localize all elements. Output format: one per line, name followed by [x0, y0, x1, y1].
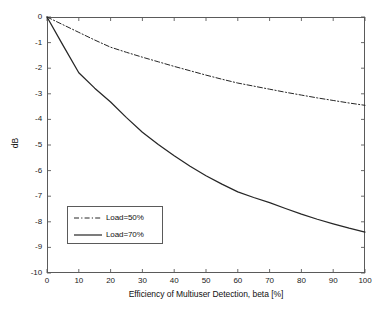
- x-tick-label: 60: [223, 276, 253, 285]
- x-tick-label: 10: [64, 276, 94, 285]
- legend-line-sample-solid: [73, 229, 103, 241]
- x-tick-label: 20: [96, 276, 126, 285]
- y-tick-label: -9: [16, 242, 42, 251]
- y-tick-label: -7: [16, 191, 42, 200]
- x-tick-label: 50: [191, 276, 221, 285]
- x-axis-label: Efficiency of Multiuser Detection, beta …: [47, 289, 365, 299]
- y-tick-label: 0: [16, 12, 42, 21]
- y-tick-label: -10: [16, 268, 42, 277]
- y-tick-label: -1: [16, 38, 42, 47]
- x-tick-label: 30: [127, 276, 157, 285]
- x-tick-label: 0: [32, 276, 62, 285]
- y-axis-label: dB: [10, 120, 20, 166]
- chart-legend: Load=50% Load=70%: [67, 206, 163, 244]
- x-tick-label: 100: [350, 276, 380, 285]
- legend-item-load-50: Load=50%: [68, 209, 162, 226]
- y-tick-label: -8: [16, 217, 42, 226]
- legend-label-load-70: Load=70%: [106, 230, 144, 239]
- chart-figure: 0102030405060708090100 0-1-2-3-4-5-6-7-8…: [0, 0, 387, 311]
- x-tick-label: 70: [255, 276, 285, 285]
- y-tick-label: -2: [16, 63, 42, 72]
- x-tick-label: 80: [286, 276, 316, 285]
- x-tick-label: 40: [159, 276, 189, 285]
- y-tick-label: -3: [16, 89, 42, 98]
- legend-item-load-70: Load=70%: [68, 226, 162, 243]
- legend-line-sample-dash-dot: [73, 212, 103, 224]
- legend-label-load-50: Load=50%: [106, 213, 144, 222]
- x-tick-label: 90: [318, 276, 348, 285]
- y-tick-label: -6: [16, 166, 42, 175]
